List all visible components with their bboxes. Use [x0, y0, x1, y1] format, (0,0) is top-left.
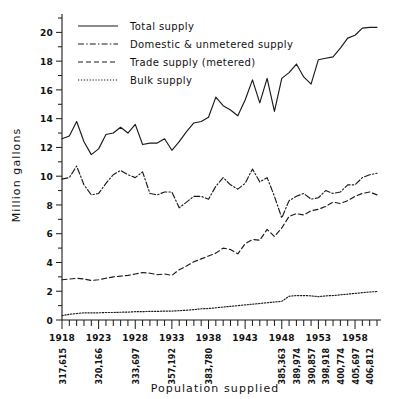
tick-labels-group: 0246810121416182019181923192819331938194… [40, 28, 368, 343]
legend-label-trade: Trade supply (metered) [129, 57, 256, 68]
y-tick-label: 16 [40, 86, 53, 96]
series-line-domestic [62, 166, 377, 218]
legend-label-total: Total supply [129, 21, 194, 32]
y-tick-label: 6 [47, 229, 53, 239]
y-tick-label: 10 [40, 172, 53, 182]
legend-group: Total supplyDomestic & unmetered supplyT… [78, 21, 293, 86]
series-line-bulk [62, 292, 377, 316]
population-tick-label: 406,812 [366, 348, 375, 384]
population-tick-label: 317,615 [59, 348, 68, 385]
y-tick-label: 0 [47, 316, 53, 326]
x-tick-label: 1948 [269, 333, 295, 343]
population-tick-label: 390,857 [308, 348, 317, 384]
y-tick-label: 14 [40, 114, 53, 124]
population-labels-group: 317,615320,166333,697357,192383,780385,3… [59, 348, 376, 385]
population-tick-label: 383,780 [205, 348, 214, 385]
population-tick-label: 405,697 [352, 348, 361, 384]
population-tick-label: 385,363 [278, 348, 287, 384]
legend-label-domestic: Domestic & unmetered supply [130, 39, 293, 50]
y-tick-label: 8 [47, 201, 53, 211]
x-tick-label: 1938 [196, 333, 222, 343]
chart-figure: 0246810121416182019181923192819331938194… [0, 0, 398, 399]
y-tick-label: 12 [40, 143, 53, 153]
series-group [62, 27, 377, 315]
population-tick-label: 333,697 [132, 348, 141, 384]
legend-label-bulk: Bulk supply [130, 75, 192, 86]
x-axis-title: Population supplied [151, 382, 280, 395]
y-tick-label: 18 [40, 57, 53, 67]
x-tick-label: 1918 [49, 333, 75, 343]
y-axis-title: Million gallons [10, 128, 23, 223]
population-tick-label: 400,774 [337, 348, 346, 385]
x-tick-label: 1928 [122, 333, 148, 343]
x-tick-label: 1923 [86, 333, 112, 343]
y-tick-label: 2 [47, 287, 53, 297]
population-tick-label: 357,192 [168, 348, 177, 384]
population-tick-label: 389,974 [293, 348, 302, 385]
population-tick-label: 398,918 [322, 348, 331, 385]
x-tick-label: 1943 [232, 333, 258, 343]
x-tick-label: 1953 [305, 333, 331, 343]
y-tick-label: 4 [47, 258, 53, 268]
series-line-trade [62, 192, 377, 280]
population-tick-label: 320,166 [95, 348, 104, 385]
x-tick-label: 1933 [159, 333, 185, 343]
chart-svg: 0246810121416182019181923192819331938194… [0, 0, 398, 399]
x-tick-label: 1958 [342, 333, 368, 343]
y-tick-label: 20 [40, 28, 53, 38]
